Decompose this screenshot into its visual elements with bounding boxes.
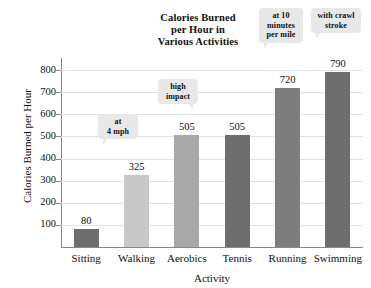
callout-line: 4 mph: [102, 127, 134, 137]
y-axis-tick-label: 400: [16, 153, 56, 164]
bar-sitting: [74, 229, 99, 247]
y-axis-title: Calories Burned per Hour: [21, 46, 33, 246]
chart-title-line-1: Calories Burned: [139, 12, 257, 24]
callout-aerobics: highimpact: [158, 79, 198, 104]
y-axis-tick: 300: [8, 175, 56, 186]
bar-aerobics: [174, 135, 199, 247]
callout-line: high: [162, 82, 194, 92]
callout-line: minutes: [263, 21, 299, 31]
bar-value-swimming: 790: [313, 58, 363, 69]
callout-tail: [103, 138, 108, 145]
callout-line: with crawl: [315, 11, 357, 21]
callout-tail: [188, 103, 193, 110]
y-axis-tick-label: 500: [16, 131, 56, 142]
y-axis-tick: 800: [8, 65, 56, 76]
y-axis-tick-label: 600: [16, 109, 56, 120]
y-axis-tick: 400: [8, 153, 56, 164]
callout-running: at 10minutesper mile: [259, 8, 303, 43]
bar-value-running: 720: [263, 74, 313, 85]
y-axis-tick: 200: [8, 197, 56, 208]
chart-title-line-3: Various Activities: [139, 36, 257, 48]
y-axis-tick-label: 300: [16, 175, 56, 186]
callout-tail: [264, 42, 269, 49]
callout-tail: [316, 32, 321, 39]
callout-line: at: [102, 117, 134, 127]
callout-walking: at4 mph: [98, 114, 138, 139]
chart-title: Calories Burned per Hour in Various Acti…: [139, 12, 257, 49]
y-axis-tick: 700: [8, 87, 56, 98]
callout-line: stroke: [315, 21, 357, 31]
y-axis-tick-label: 700: [16, 87, 56, 98]
bar-tennis: [225, 135, 250, 247]
bar-running: [275, 88, 300, 247]
callout-line: impact: [162, 92, 194, 102]
y-axis-tick: 500: [8, 131, 56, 142]
y-axis-tick-label: 100: [16, 219, 56, 230]
y-axis-tick-label: 200: [16, 197, 56, 208]
bar-walking: [124, 175, 149, 247]
callout-line: per mile: [263, 30, 299, 40]
x-axis-title: Activity: [61, 272, 363, 284]
bar-chart: Calories Burned per Hour in Various Acti…: [0, 0, 371, 288]
callout-swimming: with crawlstroke: [311, 8, 361, 33]
x-axis-line: [61, 247, 363, 248]
bar-value-sitting: 80: [61, 215, 111, 226]
x-axis-label-swimming: Swimming: [304, 252, 371, 264]
bar-value-walking: 325: [112, 161, 162, 172]
y-axis-tick: 600: [8, 109, 56, 120]
bar-value-aerobics: 505: [162, 121, 212, 132]
bar-swimming: [325, 72, 350, 247]
callout-line: at 10: [263, 11, 299, 21]
y-axis-tick: 100: [8, 219, 56, 230]
y-axis-tick-label: 800: [16, 65, 56, 76]
chart-title-line-2: per Hour in: [139, 24, 257, 36]
bar-value-tennis: 505: [212, 121, 262, 132]
